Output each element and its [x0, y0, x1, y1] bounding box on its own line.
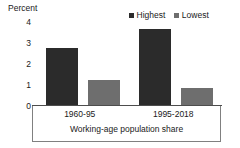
bar-chart-figure: Percent Highest Lowest 43210 1960-951995…: [0, 0, 240, 148]
legend-label-highest: Highest: [137, 10, 166, 20]
bar-lowest: [181, 88, 213, 105]
legend-entry-lowest: Lowest: [174, 10, 208, 20]
y-tick-label: 2: [26, 60, 31, 69]
x-category-label: 1995-2018: [127, 109, 221, 119]
x-axis-title: Working-age population share: [33, 124, 220, 134]
bar-group: [129, 22, 222, 105]
y-tick-label: 3: [26, 39, 31, 48]
chart-legend: Highest Lowest: [129, 10, 209, 20]
x-axis-category-labels: 1960-951995-2018: [33, 109, 220, 119]
legend-swatch-highest: [129, 13, 134, 18]
legend-entry-highest: Highest: [129, 10, 165, 20]
legend-label-lowest: Lowest: [182, 10, 209, 20]
y-tick-label: 0: [26, 102, 31, 111]
bar-lowest: [88, 80, 120, 105]
x-category-label: 1960-95: [33, 109, 127, 119]
legend-swatch-lowest: [174, 13, 179, 18]
x-axis-label-box: 1960-951995-2018 Working-age population …: [32, 106, 221, 142]
bar-highest: [46, 48, 78, 105]
bar-highest: [139, 29, 171, 105]
bar-groups: [36, 22, 222, 105]
y-tick-label: 4: [26, 18, 31, 27]
plot-area: 43210: [36, 22, 222, 106]
y-tick-label: 1: [26, 81, 31, 90]
bar-group: [36, 22, 129, 105]
y-axis-title: Percent: [8, 3, 37, 13]
